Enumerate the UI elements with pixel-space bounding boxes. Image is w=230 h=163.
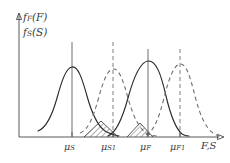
tick-label-mu-f-subscript: F — [146, 144, 151, 152]
x-axis-name: F,S — [201, 141, 216, 151]
tick-label-mu-s-subscript: S — [70, 144, 75, 152]
tick-label-mu-s: μS — [64, 142, 75, 152]
y-axis-label-fs-arg: (S) — [32, 26, 47, 38]
curve-ff1-dashed — [146, 64, 221, 136]
curve-fs-solid — [38, 67, 119, 136]
y-axis-label-ff: fF(F) — [23, 12, 47, 23]
density-curves-group — [38, 61, 221, 136]
y-axis-label-fs: fS(S) — [23, 27, 47, 38]
y-axis-label-ff-arg: (F) — [32, 11, 47, 23]
density-overlap-figure: fF(F) fS(S) μS μS1 μF μF1 F,S — [0, 0, 230, 163]
tick-label-mu-s1-subscript: S1 — [107, 144, 116, 152]
tick-label-mu-f1: μF1 — [170, 142, 185, 152]
plot-canvas — [0, 0, 230, 163]
curve-fs1-dashed — [80, 69, 157, 136]
tick-label-mu-s1: μS1 — [101, 142, 116, 152]
tick-label-mu-f: μF — [140, 142, 151, 152]
tick-label-mu-f1-subscript: F1 — [176, 144, 185, 152]
